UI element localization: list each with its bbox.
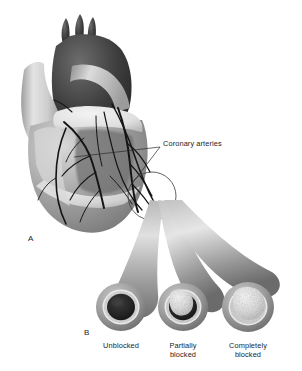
label-unblocked: Unblocked bbox=[103, 342, 139, 351]
heart-illustration bbox=[21, 14, 176, 233]
panel-label-a: A bbox=[28, 234, 33, 243]
coronary-artery-figure: Coronary arteries A B Unblocked Partiall… bbox=[0, 0, 302, 371]
interventricular-shadow bbox=[75, 129, 134, 194]
label-partially-blocked-line2: blocked bbox=[170, 351, 196, 360]
panel-label-b: B bbox=[84, 328, 89, 337]
label-completely-blocked-line2: blocked bbox=[235, 351, 261, 360]
coronary-arteries-label: Coronary arteries bbox=[163, 140, 222, 149]
cross-section-unblocked bbox=[96, 283, 146, 331]
cross-section-completely-blocked bbox=[222, 282, 274, 332]
cross-section-partially-blocked bbox=[158, 283, 208, 331]
illustration bbox=[0, 0, 302, 371]
